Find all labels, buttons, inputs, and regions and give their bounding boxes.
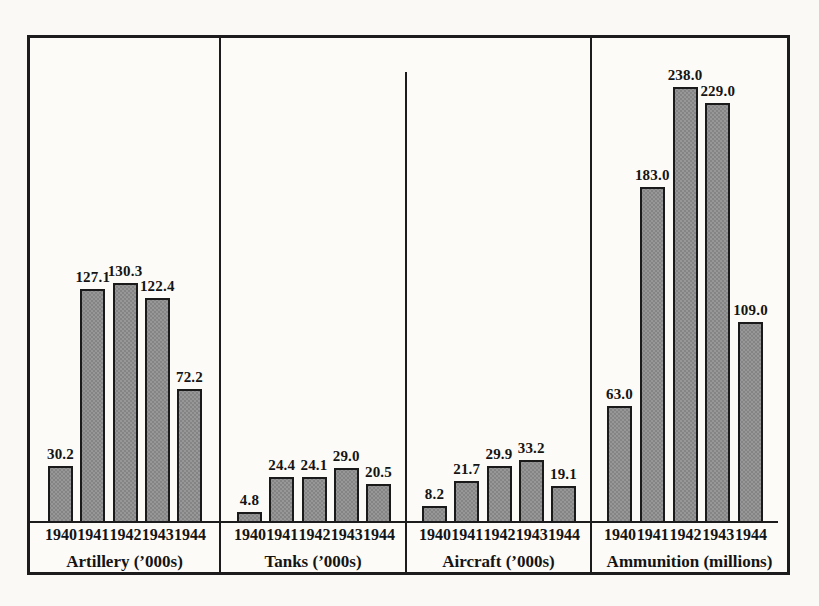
year-tick-label: 1941 <box>77 526 108 544</box>
bar-artillery-1944 <box>177 389 202 521</box>
year-tick-label: 1940 <box>45 526 76 544</box>
bar-value-label: 20.5 <box>365 464 392 481</box>
panel-aircraft: 8.221.729.933.219.119401941194219431944A… <box>407 38 590 572</box>
bar-tanks-1942 <box>302 477 327 521</box>
year-tick-label: 1943 <box>142 526 173 544</box>
bar-value-label: 33.2 <box>518 440 545 457</box>
bar-cell: 127.1 <box>77 269 108 521</box>
panel-title-artillery: Artillery (’000s) <box>30 552 219 572</box>
year-axis-artillery: 19401941194219431944 <box>45 526 205 544</box>
bar-cell: 30.2 <box>45 446 76 521</box>
year-axis-aircraft: 19401941194219431944 <box>419 526 579 544</box>
bar-aircraft-1940 <box>422 506 447 521</box>
bar-group-artillery: 30.2127.1130.3122.472.2 <box>45 38 205 521</box>
year-tick-label: 1940 <box>604 526 635 544</box>
bar-ammunition-1940 <box>607 406 632 521</box>
bar-cell: 183.0 <box>637 167 668 521</box>
year-tick-label: 1944 <box>548 526 579 544</box>
year-tick-label: 1942 <box>670 526 701 544</box>
bar-group-aircraft: 8.221.729.933.219.1 <box>419 38 579 521</box>
bar-value-label: 122.4 <box>140 278 175 295</box>
year-axis-tanks: 19401941194219431944 <box>234 526 394 544</box>
bar-aircraft-1942 <box>487 466 512 521</box>
bar-value-label: 183.0 <box>635 167 670 184</box>
bar-value-label: 8.2 <box>425 486 444 503</box>
bar-cell: 29.9 <box>484 446 515 521</box>
bar-group-ammunition: 63.0183.0238.0229.0109.0 <box>604 38 766 521</box>
bar-cell: 122.4 <box>142 278 173 521</box>
year-tick-label: 1944 <box>735 526 766 544</box>
bar-value-label: 72.2 <box>176 369 203 386</box>
bar-cell: 24.4 <box>266 457 297 521</box>
year-tick-label: 1944 <box>363 526 394 544</box>
bar-artillery-1940 <box>48 466 73 521</box>
bar-tanks-1941 <box>269 477 294 521</box>
year-tick-label: 1940 <box>234 526 265 544</box>
bar-value-label: 29.9 <box>485 446 512 463</box>
bar-cell: 4.8 <box>234 492 265 521</box>
bar-group-tanks: 4.824.424.129.020.5 <box>234 38 394 521</box>
panel-ammunition: 63.0183.0238.0229.0109.01940194119421943… <box>592 38 787 572</box>
bar-aircraft-1943 <box>519 460 544 521</box>
bar-value-label: 30.2 <box>47 446 74 463</box>
bar-tanks-1944 <box>366 484 391 521</box>
panel-title-ammunition: Ammunition (millions) <box>592 552 787 572</box>
bar-ammunition-1943 <box>705 103 730 521</box>
year-tick-label: 1943 <box>331 526 362 544</box>
bar-artillery-1941 <box>80 289 105 521</box>
bar-value-label: 24.4 <box>268 457 295 474</box>
bar-value-label: 29.0 <box>333 448 360 465</box>
bar-value-label: 130.3 <box>108 263 143 280</box>
bar-aircraft-1944 <box>551 486 576 521</box>
bar-cell: 19.1 <box>548 466 579 521</box>
bar-value-label: 19.1 <box>550 466 577 483</box>
year-tick-label: 1943 <box>516 526 547 544</box>
bar-cell: 130.3 <box>110 263 141 521</box>
bar-value-label: 21.7 <box>453 461 480 478</box>
bar-ammunition-1942 <box>673 87 698 521</box>
bar-cell: 238.0 <box>670 67 701 521</box>
panel-title-aircraft: Aircraft (’000s) <box>407 552 590 572</box>
year-tick-label: 1942 <box>484 526 515 544</box>
year-tick-label: 1942 <box>110 526 141 544</box>
chart-frame: 30.2127.1130.3122.472.219401941194219431… <box>27 35 790 575</box>
bar-artillery-1943 <box>145 298 170 521</box>
bar-cell: 63.0 <box>604 386 635 521</box>
year-tick-label: 1942 <box>299 526 330 544</box>
bar-value-label: 229.0 <box>700 83 735 100</box>
year-tick-label: 1944 <box>174 526 205 544</box>
bar-cell: 229.0 <box>702 83 733 521</box>
bar-value-label: 24.1 <box>300 457 327 474</box>
bar-value-label: 127.1 <box>75 269 110 286</box>
bar-value-label: 109.0 <box>733 302 768 319</box>
panel-title-tanks: Tanks (’000s) <box>221 552 405 572</box>
bar-cell: 20.5 <box>363 464 394 521</box>
bar-ammunition-1941 <box>640 187 665 521</box>
bar-tanks-1940 <box>237 512 262 521</box>
panel-artillery: 30.2127.1130.3122.472.219401941194219431… <box>30 38 219 572</box>
year-axis-ammunition: 19401941194219431944 <box>604 526 766 544</box>
bar-value-label: 63.0 <box>606 386 633 403</box>
year-tick-label: 1941 <box>266 526 297 544</box>
year-tick-label: 1943 <box>702 526 733 544</box>
year-tick-label: 1941 <box>451 526 482 544</box>
panel-tanks: 4.824.424.129.020.519401941194219431944T… <box>221 38 405 572</box>
bar-cell: 21.7 <box>451 461 482 521</box>
bar-ammunition-1944 <box>738 322 763 521</box>
bar-cell: 109.0 <box>735 302 766 521</box>
bar-cell: 29.0 <box>331 448 362 521</box>
bar-cell: 8.2 <box>419 486 450 521</box>
year-tick-label: 1940 <box>419 526 450 544</box>
bar-aircraft-1941 <box>454 481 479 521</box>
bar-cell: 24.1 <box>299 457 330 521</box>
bar-tanks-1943 <box>334 468 359 521</box>
year-tick-label: 1941 <box>637 526 668 544</box>
bar-value-label: 238.0 <box>668 67 703 84</box>
bar-value-label: 4.8 <box>240 492 259 509</box>
bar-cell: 33.2 <box>516 440 547 521</box>
chart-canvas: 30.2127.1130.3122.472.219401941194219431… <box>0 0 819 606</box>
bar-cell: 72.2 <box>174 369 205 521</box>
bar-artillery-1942 <box>113 283 138 521</box>
